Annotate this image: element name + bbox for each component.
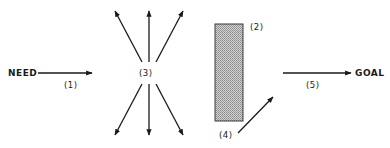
barrier-rectangle [215,24,243,121]
arrow-down-right [156,84,183,135]
arrow-down-left [115,84,142,135]
step-4-label: (4) [219,130,233,140]
need-goal-diagram [0,0,390,148]
arrow-up-left [115,11,142,62]
need-label: NEED [8,68,37,78]
arrow-up-right [156,11,183,62]
step-3-label: (3) [139,68,153,78]
step-5-label: (5) [306,80,320,90]
goal-label: GOAL [355,68,385,78]
step-1-label: (1) [64,80,78,90]
step-2-label: (2) [250,22,264,32]
